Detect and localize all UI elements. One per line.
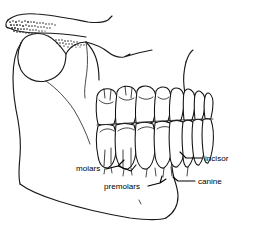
lower-teeth-row bbox=[97, 119, 214, 170]
label-canine[interactable]: canine bbox=[198, 177, 222, 186]
maxilla-upper-right-stub bbox=[186, 50, 193, 62]
upper-tooth-4-premolar bbox=[155, 87, 171, 123]
label-molars[interactable]: molars bbox=[76, 164, 100, 173]
condyle-inferior-curve bbox=[46, 54, 66, 81]
upper-tooth-1-molar bbox=[96, 89, 117, 126]
coronoid-process-outline bbox=[21, 34, 86, 54]
leader-line-canine[interactable] bbox=[173, 177, 195, 181]
label-incisor[interactable]: incisor bbox=[205, 154, 229, 163]
zygomatic-arch-group bbox=[6, 14, 112, 37]
root-premolar-b bbox=[163, 167, 172, 177]
coronoid-and-notch-group bbox=[18, 34, 152, 82]
zygomatic-arch-upper-edge bbox=[8, 14, 112, 23]
leader-line-premolars[interactable] bbox=[148, 176, 166, 186]
anatomical-figure: molars premolars incisor canine bbox=[0, 0, 253, 252]
mandible-ramus-anterior-ridge bbox=[85, 42, 88, 98]
jaw-diagram-svg: molars premolars incisor canine bbox=[0, 0, 253, 252]
zygomatic-arch-anterior-tip bbox=[6, 20, 9, 28]
mandible-symphysis-chin bbox=[166, 178, 178, 218]
upper-tooth-3-molar bbox=[136, 86, 156, 124]
upper-tooth-7-incisor bbox=[194, 91, 205, 121]
mandible-internal-oblique-line bbox=[46, 81, 90, 144]
label-premolars[interactable]: premolars bbox=[104, 182, 140, 191]
maxilla-anterior-descender bbox=[86, 42, 99, 80]
root-canine bbox=[187, 167, 188, 176]
zygomatic-arch-stipple-shading bbox=[9, 20, 56, 34]
mandible-body-tick-mark bbox=[139, 200, 141, 204]
root-premolar-a bbox=[146, 168, 156, 177]
upper-tooth-5-premolar bbox=[170, 88, 184, 122]
upper-tooth-2-molar bbox=[116, 86, 137, 125]
mandible-posterior-border bbox=[13, 43, 21, 184]
mandible-inferior-border bbox=[20, 184, 166, 220]
maxilla-alveolar-edge bbox=[86, 42, 152, 57]
upper-tooth-8-incisor bbox=[204, 93, 213, 120]
upper-tooth-6-canine bbox=[183, 89, 195, 122]
mandibular-notch-curve bbox=[18, 43, 46, 82]
